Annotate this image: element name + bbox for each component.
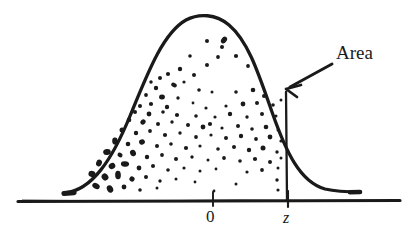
stipple-dot — [197, 88, 201, 92]
stipple-dot — [126, 142, 131, 147]
stipple-dot — [184, 146, 188, 150]
stipple-dot — [106, 184, 115, 194]
stipple-dot — [224, 136, 228, 140]
stipple-dot — [204, 106, 207, 109]
stipple-dot — [236, 124, 240, 128]
stipple-dot — [159, 94, 165, 100]
stipple-dot — [228, 112, 232, 116]
stipple-dot — [148, 129, 152, 133]
stipple-dot — [205, 39, 209, 43]
axis-tick-label-zero: 0 — [206, 208, 215, 225]
stipple-dot — [251, 88, 256, 93]
stipple-dot — [166, 168, 170, 172]
stipple-dot — [222, 156, 226, 160]
stipple-dot — [268, 160, 272, 164]
stipple-dot — [215, 168, 218, 171]
stipple-dot — [133, 110, 137, 114]
stipple-dot — [188, 54, 192, 58]
stipple-dot — [158, 179, 161, 182]
stipple-dot — [268, 135, 273, 140]
stipple-dot — [120, 128, 125, 133]
stipple-dot — [234, 90, 238, 94]
stipple-dot — [156, 122, 160, 126]
stipple-dot — [260, 112, 264, 116]
stipple-dot — [139, 118, 146, 125]
stipple-dot — [279, 139, 282, 142]
stipple-dot — [211, 91, 214, 94]
vertical-line-at-z — [286, 92, 287, 200]
stipple-dot — [165, 105, 169, 109]
stipple-dot — [209, 133, 212, 136]
stipple-dot — [238, 159, 242, 163]
axis-tick-label-z: z — [283, 210, 289, 226]
stipple-dot — [199, 170, 202, 173]
stipple-dot — [129, 149, 137, 157]
stipple-dot — [213, 115, 216, 118]
stipple-dot — [154, 86, 158, 90]
stipple-dot — [156, 187, 159, 190]
stipple-dot — [220, 126, 223, 129]
stipple-dot — [95, 159, 103, 167]
stipple-dot — [264, 125, 269, 130]
stipple-dot — [149, 80, 152, 83]
axis-ticks-group — [213, 191, 288, 207]
stipple-dot — [91, 182, 100, 190]
bell-curve-group — [64, 16, 360, 194]
stipple-dot — [207, 159, 210, 162]
stipple-dot — [151, 164, 155, 168]
stipple-dot — [138, 104, 142, 108]
stipple-dot — [121, 161, 130, 167]
stipple-dot — [115, 171, 121, 180]
stipple-dot — [149, 102, 153, 106]
stipple-dot — [178, 67, 182, 71]
stipple-dot — [190, 155, 193, 158]
area-arrow-shaft — [290, 64, 332, 87]
stipple-dot — [163, 133, 167, 137]
stipple-dot — [182, 166, 185, 169]
stipple-dot — [239, 134, 243, 138]
stipple-dot — [134, 131, 138, 135]
stipple-dot — [192, 73, 196, 77]
stipple-dot — [275, 150, 278, 153]
stipple-dot — [147, 112, 152, 117]
stipple-dot — [235, 183, 238, 186]
stipple-dot — [166, 72, 170, 76]
stipple-dot — [117, 152, 124, 158]
stipple-dot — [128, 175, 135, 182]
area-callout-arrow-group — [286, 64, 332, 97]
stipple-dot — [178, 131, 181, 134]
stipple-dot — [280, 99, 283, 102]
stipple-dot — [262, 94, 266, 98]
stipple-dot — [260, 168, 264, 172]
stipple-dot — [246, 64, 250, 68]
stipple-dot — [276, 188, 279, 191]
stipple-dot — [224, 104, 227, 107]
stipple-dot — [247, 148, 251, 152]
stipple-dot — [182, 80, 185, 83]
stipple-dot — [100, 172, 110, 182]
stipple-dot — [245, 115, 248, 118]
stipple-dot — [186, 123, 190, 127]
stipple-dot — [255, 101, 259, 105]
stipple-dot — [271, 103, 275, 107]
stipple-dot — [205, 63, 209, 67]
stipple-dot — [254, 137, 258, 141]
stipple-dot — [169, 142, 173, 146]
stipple-dot — [170, 82, 177, 89]
stipple-dot — [145, 155, 149, 159]
stipple-dot — [175, 178, 178, 181]
stipple-dot — [170, 120, 173, 123]
stipple-dot — [253, 157, 257, 161]
area-annotation-label: Area — [336, 43, 373, 62]
stipple-dot — [208, 122, 212, 126]
stipple-dot — [241, 102, 246, 107]
stipple-dot — [201, 125, 206, 130]
stipple-dot — [261, 146, 266, 151]
stipple-dot — [280, 157, 283, 160]
stipple-dot — [232, 145, 236, 149]
stipple-dot — [155, 144, 159, 148]
stipple-dot — [161, 110, 165, 114]
stipple-dot — [192, 102, 195, 105]
stipple-dot — [275, 178, 278, 181]
stipple-dot — [138, 188, 142, 192]
